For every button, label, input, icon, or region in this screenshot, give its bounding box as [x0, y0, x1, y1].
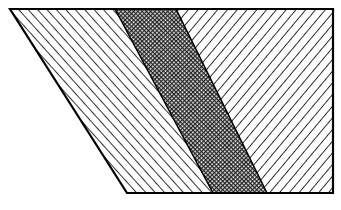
cross-section-diagram — [0, 0, 341, 210]
figure-canvas — [0, 0, 341, 210]
